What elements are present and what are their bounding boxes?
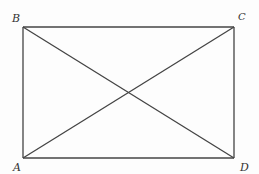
diagram-canvas: B C A D — [0, 0, 259, 174]
rectangle-diagram — [0, 0, 259, 174]
vertex-label-d: D — [240, 162, 249, 173]
vertex-label-a: A — [13, 162, 21, 173]
vertex-label-b: B — [12, 13, 20, 24]
vertex-label-c: C — [238, 12, 246, 22]
